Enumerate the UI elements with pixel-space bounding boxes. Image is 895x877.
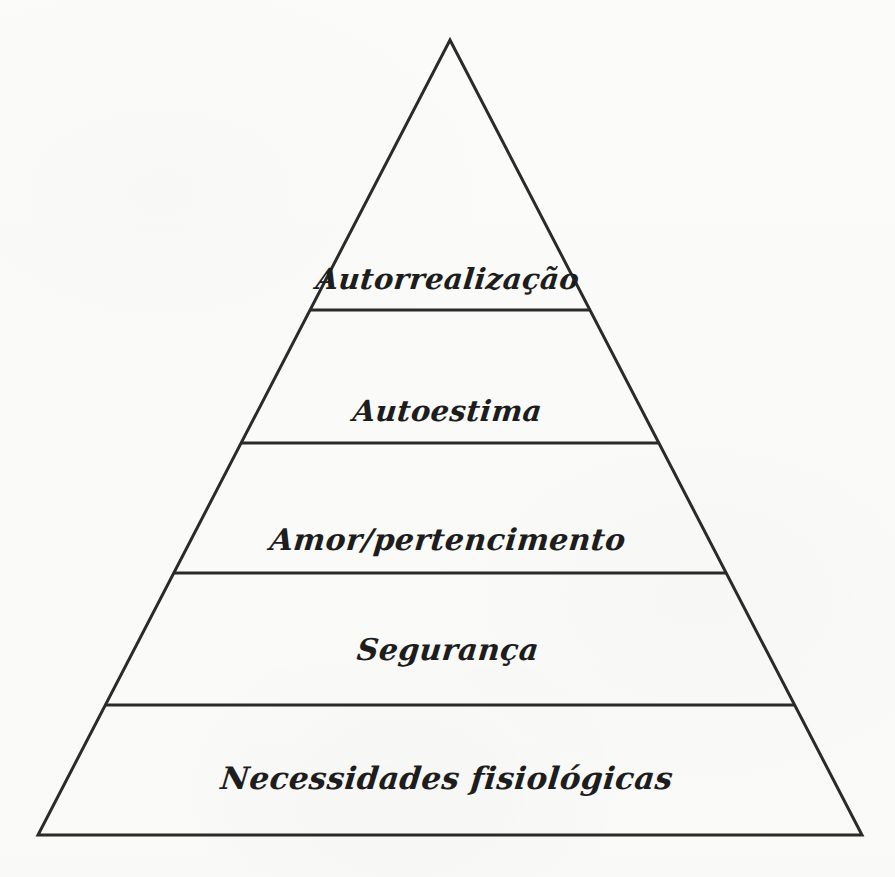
tier-label-self-actualization: Autorrealização: [0, 262, 895, 296]
tier-label-text: Autorrealização: [314, 262, 581, 296]
tier-label-love-belonging: Amor/pertencimento: [0, 522, 895, 557]
tier-label-esteem: Autoestima: [0, 394, 895, 428]
tier-label-text: Autoestima: [351, 394, 544, 428]
tier-label-safety: Segurança: [0, 632, 895, 667]
tier-label-physiological: Necessidades fisiológicas: [0, 760, 895, 796]
tier-label-text: Segurança: [355, 632, 541, 667]
pyramid-outline: [38, 40, 862, 835]
maslow-pyramid-diagram: Autorrealização Autoestima Amor/pertenci…: [0, 0, 895, 877]
pyramid-outline-svg: [0, 0, 895, 877]
tier-label-text: Amor/pertencimento: [268, 522, 627, 557]
tier-label-text: Necessidades fisiológicas: [220, 760, 676, 796]
